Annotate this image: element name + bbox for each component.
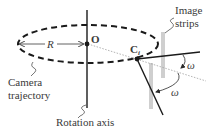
image-strip-upper: [161, 32, 165, 78]
camera-point-label: Ci: [130, 43, 140, 57]
image-strips-label-2: strips: [175, 17, 199, 29]
camera-point-ci: [135, 57, 140, 62]
image-strips-pointer: [165, 18, 174, 33]
camera-trajectory-pointer: [31, 62, 36, 76]
radius-label: R: [46, 38, 54, 50]
omega-label-upper: ω: [187, 59, 195, 71]
camera-trajectory-label: Camera: [8, 76, 42, 88]
rotation-axis-label: Rotation axis: [56, 116, 114, 128]
image-strips-label: Image: [175, 4, 203, 16]
viewing-direction-upper: [137, 52, 200, 59]
omega-label-lower: ω: [171, 86, 179, 98]
center-label: O: [91, 33, 100, 45]
camera-trajectory-label-2: trajectory: [8, 89, 51, 101]
camera-trajectory-diagram: R O Ci ω ω Image strips Camera trajector…: [0, 0, 213, 132]
center-point-o: [85, 42, 90, 47]
omega-arc-upper: [181, 55, 185, 68]
